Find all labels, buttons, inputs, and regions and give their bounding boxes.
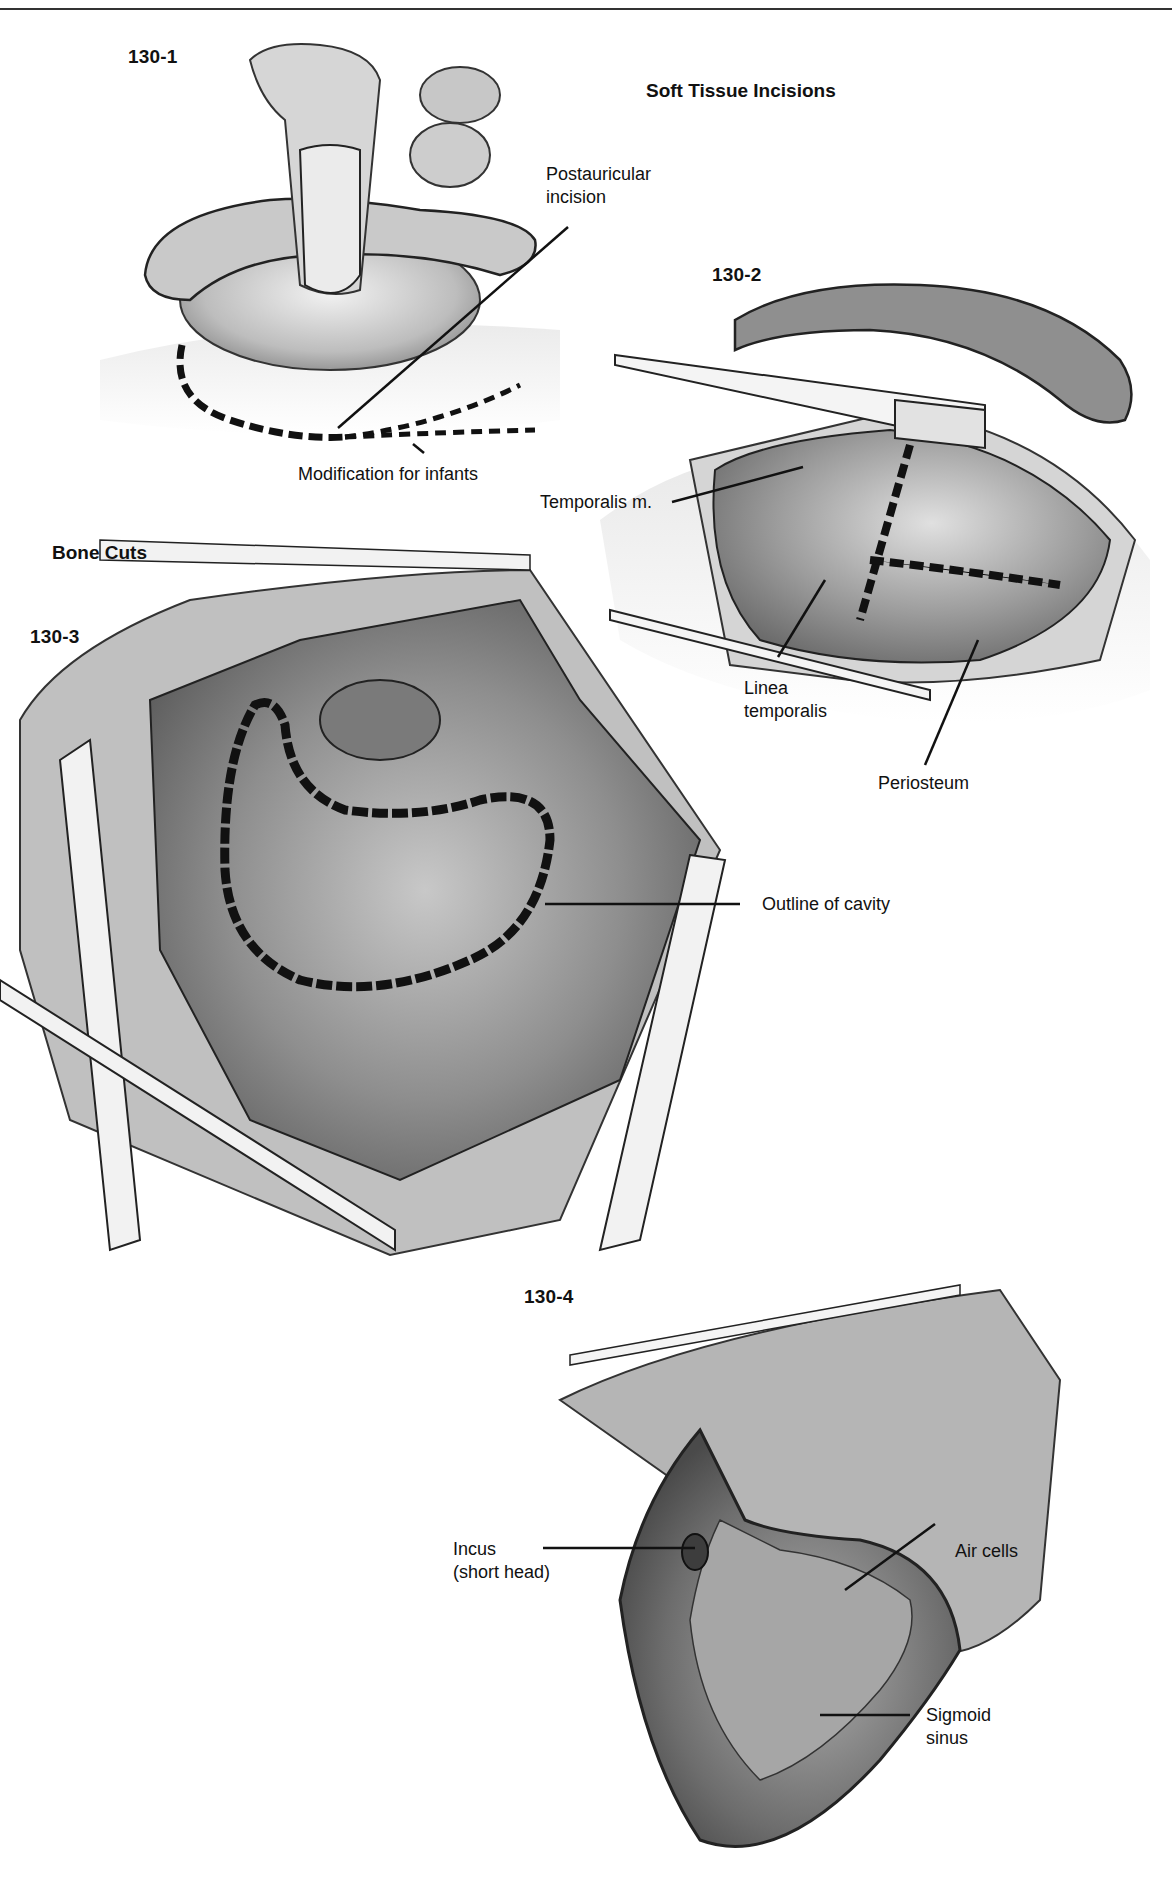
label-linea-temporalis: Linea temporalis	[744, 677, 827, 723]
label-sigmoid-sinus: Sigmoid sinus	[926, 1704, 991, 1750]
label-temporalis-muscle: Temporalis m.	[540, 491, 652, 514]
section-title-soft-tissue: Soft Tissue Incisions	[646, 80, 836, 102]
figure-number-130-2: 130-2	[712, 264, 762, 286]
label-line: Linea	[744, 677, 827, 700]
label-air-cells: Air cells	[955, 1540, 1018, 1563]
label-line: incision	[546, 186, 651, 209]
figure-130-1-art	[100, 44, 568, 453]
figure-number-130-3: 130-3	[30, 626, 80, 648]
figure-number-130-4: 130-4	[524, 1286, 574, 1308]
section-title-bone-cuts: Bone Cuts	[52, 542, 147, 564]
label-outline-of-cavity: Outline of cavity	[762, 893, 890, 916]
label-incus-short-head: Incus (short head)	[453, 1538, 550, 1584]
label-modification-for-infants: Modification for infants	[298, 463, 478, 486]
label-line: sinus	[926, 1727, 991, 1750]
label-line: Postauricular	[546, 163, 651, 186]
figure-130-4-art	[543, 1285, 1060, 1846]
label-line: Incus	[453, 1538, 550, 1561]
label-postauricular-incision: Postauricular incision	[546, 163, 651, 209]
surgical-illustrations	[0, 0, 1172, 1885]
figure-number-130-1: 130-1	[128, 46, 178, 68]
label-periosteum: Periosteum	[878, 772, 969, 795]
label-line: (short head)	[453, 1561, 550, 1584]
figure-130-2-art	[600, 284, 1150, 765]
label-line: Sigmoid	[926, 1704, 991, 1727]
label-line: temporalis	[744, 700, 827, 723]
figure-130-3-art	[0, 540, 740, 1255]
